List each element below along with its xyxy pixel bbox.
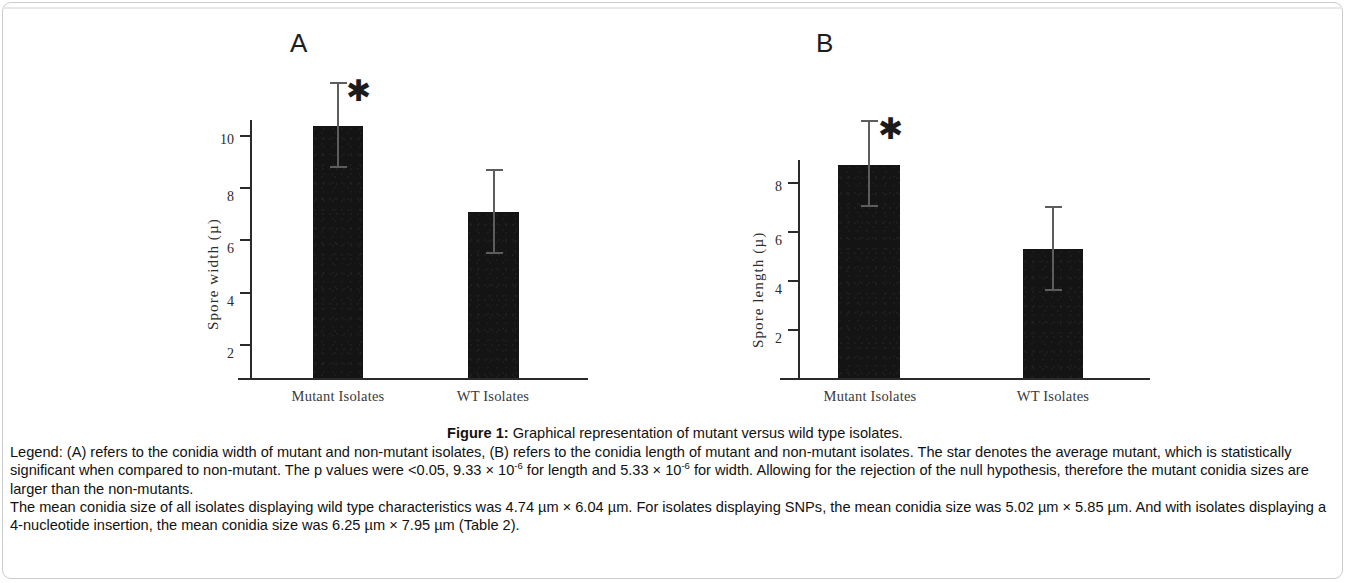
panel-a-y-tick-10 bbox=[240, 135, 251, 137]
figure-caption: Figure 1: Graphical representation of mu… bbox=[10, 424, 1340, 534]
legend-exponent-2: -6 bbox=[681, 461, 689, 472]
panel-b-y-tick-2 bbox=[788, 329, 799, 331]
panel-a-y-tick-label-2: 2 bbox=[212, 346, 234, 362]
panel-b-errorbar-wt-cap-top bbox=[1045, 206, 1062, 208]
panel-a-y-tick-label-4: 4 bbox=[212, 294, 234, 310]
panel-a-y-tick-label-8: 8 bbox=[212, 189, 234, 205]
panel-b-errorbar-mutant-cap-top bbox=[861, 120, 878, 122]
panel-b-x-label-wt-isolates: WT Isolates bbox=[978, 388, 1128, 405]
panel-b-significance-star-icon: ✱ bbox=[878, 114, 903, 144]
figure-page: A Spore width (µ) 2 4 6 8 10 ✱ bbox=[0, 0, 1347, 583]
panel-a-x-label-wt-isolates: WT Isolates bbox=[418, 388, 568, 405]
figure-caption-title: Graphical representation of mutant versu… bbox=[509, 425, 903, 441]
chart-panel-b: B Spore length (µ) 2 4 6 8 ✱ bbox=[690, 0, 1230, 420]
panel-b-y-tick-8 bbox=[788, 182, 799, 184]
panel-b-y-tick-6 bbox=[788, 231, 799, 233]
figure-caption-legend: Legend: (A) refers to the conidia width … bbox=[10, 443, 1340, 498]
panel-a-significance-star-icon: ✱ bbox=[346, 76, 371, 106]
panel-b-y-axis-line bbox=[798, 160, 800, 378]
panel-a-y-axis-title: Spore width (µ) bbox=[205, 218, 222, 330]
panel-a-errorbar-mutant-line bbox=[337, 82, 339, 167]
panel-b-errorbar-wt-line bbox=[1052, 206, 1054, 290]
panel-b-y-tick-4 bbox=[788, 280, 799, 282]
panel-a-errorbar-mutant-cap-bottom bbox=[330, 166, 347, 168]
panel-a-x-label-mutant-isolates: Mutant Isolates bbox=[258, 388, 418, 405]
figure-area: A Spore width (µ) 2 4 6 8 10 ✱ bbox=[0, 0, 1347, 420]
panel-a-errorbar-wt-cap-bottom bbox=[486, 252, 503, 254]
panel-b-y-tick-label-4: 4 bbox=[760, 282, 782, 298]
panel-b-x-label-mutant-isolates: Mutant Isolates bbox=[790, 388, 950, 405]
panel-a-y-tick-6 bbox=[240, 239, 251, 241]
panel-b-errorbar-mutant-line bbox=[868, 120, 870, 206]
chart-panel-a: A Spore width (µ) 2 4 6 8 10 ✱ bbox=[150, 0, 670, 420]
panel-a-y-tick-2 bbox=[240, 344, 251, 346]
panel-a-y-tick-4 bbox=[240, 292, 251, 294]
panel-a-y-tick-label-10: 10 bbox=[206, 132, 234, 148]
panel-b-errorbar-mutant-cap-bottom bbox=[861, 205, 878, 207]
panel-a-errorbar-mutant-cap-top bbox=[330, 82, 347, 84]
panel-b-x-axis-line bbox=[780, 378, 1150, 380]
panel-a-x-axis-line bbox=[238, 378, 588, 380]
panel-a-y-tick-label-6: 6 bbox=[212, 241, 234, 257]
panel-b-errorbar-wt-cap-bottom bbox=[1045, 289, 1062, 291]
panel-b-y-tick-label-6: 6 bbox=[760, 233, 782, 249]
legend-exponent-1: -6 bbox=[514, 461, 522, 472]
panel-a-letter: A bbox=[290, 28, 307, 59]
panel-b-letter: B bbox=[816, 28, 833, 59]
figure-caption-title-line: Figure 1: Graphical representation of mu… bbox=[10, 424, 1340, 442]
legend-text-part-2: for length and 5.33 × 10 bbox=[523, 462, 682, 478]
panel-a-errorbar-wt-line bbox=[493, 169, 495, 253]
panel-a-y-axis-line bbox=[250, 120, 252, 378]
panel-b-y-tick-label-2: 2 bbox=[760, 331, 782, 347]
panel-a-y-tick-8 bbox=[240, 187, 251, 189]
panel-b-y-tick-label-8: 8 bbox=[760, 179, 782, 195]
figure-caption-body: The mean conidia size of all isolates di… bbox=[10, 498, 1340, 534]
figure-caption-label: Figure 1: bbox=[447, 425, 509, 441]
panel-a-errorbar-wt-cap-top bbox=[486, 169, 503, 171]
